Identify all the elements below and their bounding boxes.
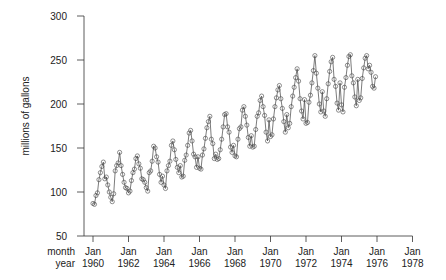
y-tick-label: 150 xyxy=(50,143,67,154)
y-tick-label: 250 xyxy=(50,55,67,66)
x-row-label-year: year xyxy=(56,258,76,269)
x-tick-year: 1972 xyxy=(295,258,318,269)
x-tick-month: Jan xyxy=(120,246,136,257)
x-tick-month: Jan xyxy=(156,246,172,257)
x-row-label-month: month xyxy=(47,246,75,257)
x-tick-year: 1966 xyxy=(188,258,211,269)
y-tick-label: 50 xyxy=(56,231,68,242)
x-tick-month: Jan xyxy=(227,246,243,257)
x-tick-month: Jan xyxy=(85,246,101,257)
x-tick-year: 1974 xyxy=(330,258,353,269)
x-tick-year: 1978 xyxy=(401,258,424,269)
x-tick-month: Jan xyxy=(404,246,420,257)
x-tick-year: 1960 xyxy=(82,258,105,269)
x-tick-month: Jan xyxy=(298,246,314,257)
x-tick-month: Jan xyxy=(191,246,207,257)
x-tick-year: 1970 xyxy=(259,258,282,269)
y-tick-label: 300 xyxy=(50,11,67,22)
y-tick-label: 100 xyxy=(50,187,67,198)
x-tick-month: Jan xyxy=(262,246,278,257)
x-tick-year: 1964 xyxy=(153,258,176,269)
line-chart: 50100150200250300millions of gallonsJan1… xyxy=(0,0,446,280)
x-tick-year: 1968 xyxy=(224,258,247,269)
x-tick-month: Jan xyxy=(333,246,349,257)
x-tick-year: 1962 xyxy=(117,258,140,269)
x-tick-year: 1976 xyxy=(366,258,389,269)
x-tick-month: Jan xyxy=(369,246,385,257)
data-series xyxy=(91,53,378,207)
y-axis-label: millions of gallons xyxy=(20,77,31,156)
y-tick-label: 200 xyxy=(50,99,67,110)
chart-container: 50100150200250300millions of gallonsJan1… xyxy=(0,0,446,280)
